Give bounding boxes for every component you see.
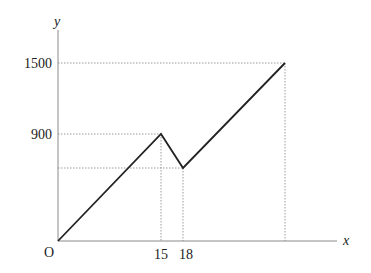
y-axis-label: y [52, 14, 61, 29]
guide-lines [58, 63, 285, 241]
origin-label: O [44, 245, 54, 260]
axes [58, 30, 337, 241]
y-tick-1500: 1500 [24, 56, 52, 71]
x-tick-18: 18 [179, 247, 193, 262]
data-line [58, 63, 285, 241]
x-tick-15: 15 [154, 247, 168, 262]
y-tick-900: 900 [31, 127, 52, 142]
chart-canvas: y x O 1500 900 15 18 [0, 0, 371, 273]
x-axis-label: x [342, 233, 350, 248]
